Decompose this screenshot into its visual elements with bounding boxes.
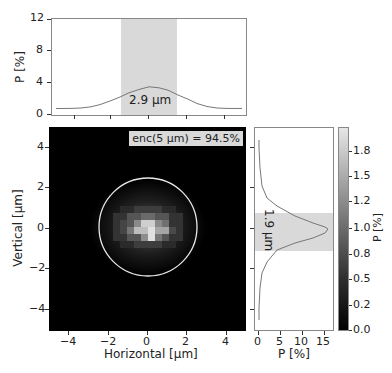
top-band-label: 2.9 μm xyxy=(129,93,171,107)
enc-annotation: enc(5 μm) = 94.5% xyxy=(129,131,243,146)
cbar-tick xyxy=(349,279,352,280)
beam-pixels xyxy=(113,206,183,248)
side-xtick-15: 15 xyxy=(316,335,330,348)
cbar-tick-label: 0.0 xyxy=(353,323,371,336)
top-ytick-12: 12 xyxy=(30,11,44,24)
cbar-label: P [%] xyxy=(371,208,384,248)
x-tick xyxy=(74,115,75,119)
main-ytick-4: 4 xyxy=(37,140,44,153)
cbar-tick xyxy=(349,305,352,306)
y-tick xyxy=(47,82,51,83)
top-ylabel: P [%] xyxy=(13,47,27,87)
main-ylabel: Vertical [μm] xyxy=(11,183,25,273)
main-ytick-2: 2 xyxy=(37,180,44,193)
colorbar xyxy=(338,127,349,331)
main-xtick--4: −4 xyxy=(60,335,76,348)
y-tick xyxy=(250,228,254,229)
y-tick xyxy=(250,147,254,148)
main-ytick-0: 0 xyxy=(37,221,44,234)
cbar-tick xyxy=(349,254,352,255)
cbar-tick-label: 0.2 xyxy=(353,298,371,311)
x-tick xyxy=(186,115,187,119)
beam-heatmap xyxy=(49,127,246,331)
side-xlabel: P [%] xyxy=(278,347,310,361)
y-tick xyxy=(250,268,254,269)
side-xtick-0: 0 xyxy=(254,335,261,348)
cbar-tick-label: 1.8 xyxy=(353,144,371,157)
y-tick xyxy=(45,268,49,269)
top-ytick-8: 8 xyxy=(36,43,43,56)
cbar-tick-label: 1.5 xyxy=(353,169,371,182)
main-ytick--2: −2 xyxy=(29,261,45,274)
y-tick xyxy=(250,187,254,188)
x-tick xyxy=(110,115,111,119)
y-tick xyxy=(45,147,49,148)
cbar-tick-label: 0.5 xyxy=(353,272,371,285)
y-tick xyxy=(45,228,49,229)
top-ytick-4: 4 xyxy=(36,75,43,88)
side-band-label: 1.9 μm xyxy=(262,209,276,249)
cbar-tick-label: 0.8 xyxy=(353,247,371,260)
x-tick xyxy=(224,115,225,119)
y-tick xyxy=(250,309,254,310)
beam-image: enc(5 μm) = 94.5% xyxy=(49,127,246,331)
y-tick xyxy=(47,114,51,115)
cbar-tick xyxy=(349,228,352,229)
cbar-tick xyxy=(349,151,352,152)
main-xtick-4: 4 xyxy=(222,335,229,348)
x-tick xyxy=(148,115,149,119)
y-tick xyxy=(45,309,49,310)
y-tick xyxy=(47,19,51,20)
y-tick xyxy=(47,50,51,51)
cbar-tick xyxy=(349,201,352,202)
main-xlabel: Horizontal [μm] xyxy=(104,347,198,361)
cbar-tick-label: 1.2 xyxy=(353,194,371,207)
top-ytick-0: 0 xyxy=(36,107,43,120)
cbar-tick xyxy=(349,330,352,331)
y-tick xyxy=(45,187,49,188)
cbar-tick-label: 1.0 xyxy=(353,221,371,234)
main-ytick--4: −4 xyxy=(29,302,45,315)
cbar-tick xyxy=(349,176,352,177)
